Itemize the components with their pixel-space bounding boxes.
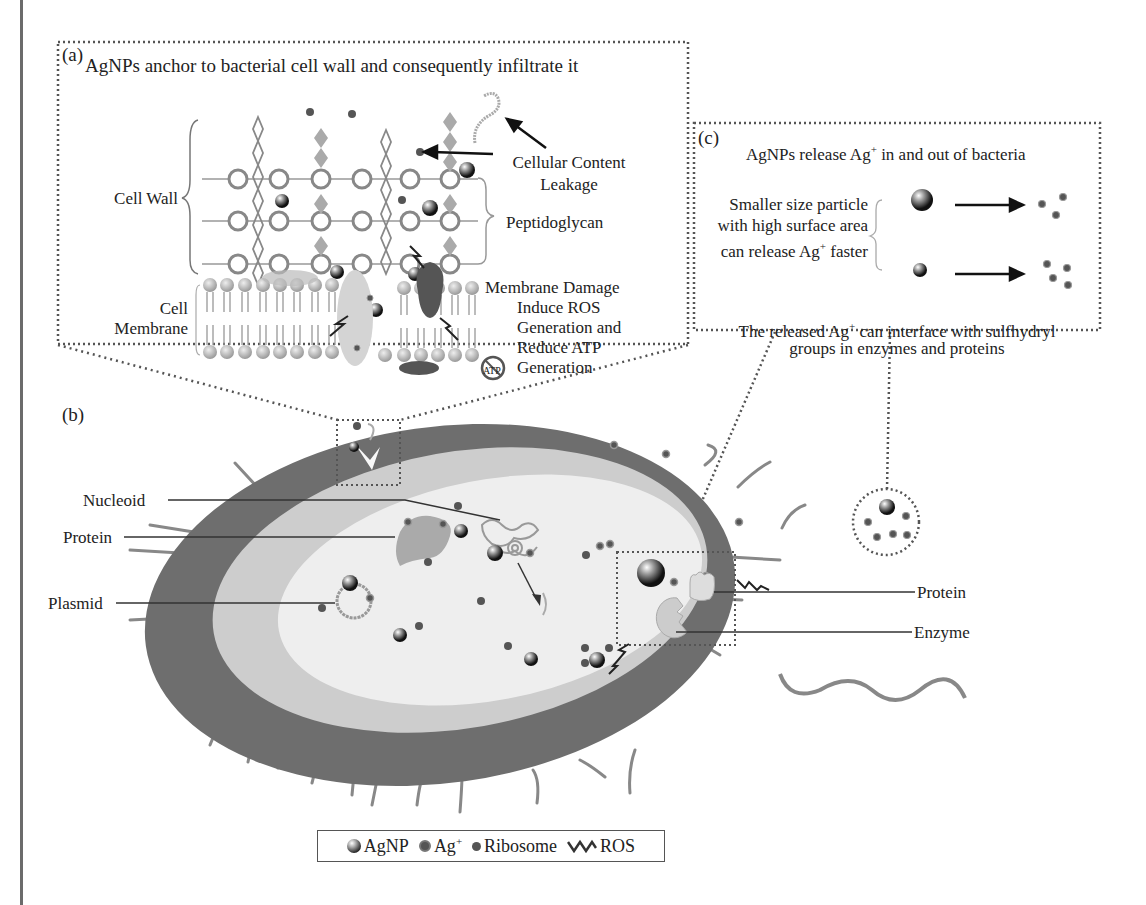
- panel-c-letter: (c): [698, 127, 719, 149]
- membrane-damage-label: Membrane Damage: [485, 278, 620, 297]
- ag-ion-icon: [419, 840, 431, 852]
- peptidoglycan-label: Peptidoglycan: [506, 213, 603, 232]
- atp-generation-label: Generation: [517, 358, 593, 377]
- panel-c-title: AgNPs release Ag+ in and out of bacteria: [746, 140, 1026, 164]
- legend-label: Ribosome: [484, 836, 557, 857]
- agnp-sphere-icon: [347, 839, 361, 853]
- size-text-1: Smaller size particle: [700, 195, 868, 214]
- cell-membrane-label-2: Membrane: [90, 319, 188, 338]
- legend-item-ag-ion: Ag+: [419, 835, 462, 857]
- legend-item-ribosome: Ribosome: [472, 836, 557, 857]
- note-text-1: The released Ag+ can interface with sulf…: [694, 317, 1100, 341]
- atp-no-icon: ATP: [483, 361, 501, 380]
- leakage-label-1: Cellular Content: [494, 153, 644, 172]
- protein-left-label: Protein: [63, 528, 112, 547]
- cell-membrane-label-1: Cell: [90, 299, 188, 318]
- nucleoid-label: Nucleoid: [83, 491, 145, 510]
- note-text-2: groups in enzymes and proteins: [694, 339, 1100, 358]
- panel-b-letter: (b): [62, 404, 84, 426]
- induce-ros-label: Induce ROS: [517, 298, 601, 317]
- legend-item-agnp: AgNP: [347, 836, 409, 857]
- cell-wall-label: Cell Wall: [90, 189, 178, 208]
- panel-a-letter: (a): [62, 44, 83, 66]
- legend-label: ROS: [600, 836, 635, 857]
- leakage-label-2: Leakage: [494, 175, 644, 194]
- reduce-atp-label: Reduce ATP: [517, 338, 602, 357]
- legend: AgNP Ag+ Ribosome ROS: [317, 830, 665, 862]
- plasmid-label: Plasmid: [48, 594, 103, 613]
- ribosome-dot-icon: [472, 842, 481, 851]
- panel-a-title: AgNPs anchor to bacterial cell wall and …: [85, 56, 578, 75]
- protein-right-label: Protein: [917, 583, 966, 602]
- legend-label: Ag+: [434, 835, 462, 857]
- legend-item-ros: ROS: [567, 836, 635, 857]
- enzyme-label: Enzyme: [914, 623, 970, 642]
- legend-label: AgNP: [364, 836, 409, 857]
- ros-zigzag-icon: [567, 839, 597, 853]
- generation-and-label: Generation and: [517, 318, 621, 337]
- size-text-3: can release Ag+ faster: [700, 237, 868, 261]
- size-text-2: with high surface area: [700, 216, 868, 235]
- diagram-artwork: [0, 0, 1146, 905]
